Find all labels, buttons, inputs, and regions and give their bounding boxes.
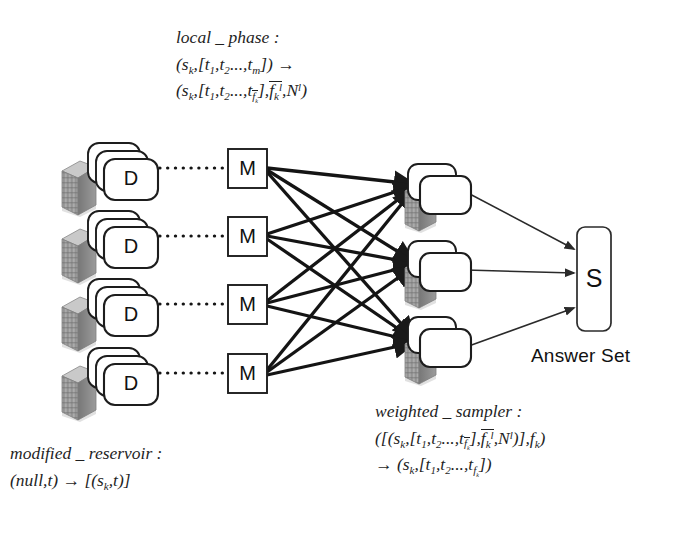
weighted-sampler-line2: ([(sk,[t1,t2...,tfk],fkl,Nl)],fk) [375, 425, 545, 452]
diagram-canvas: D D D D M M M M S Answer Set local _ pha… [0, 0, 675, 534]
edge-r2-s [466, 270, 574, 273]
edge-m2-r1 [267, 186, 413, 234]
local-phase-title: local _ phase : [176, 24, 307, 51]
weighted-sampler-title: weighted _ sampler : [375, 398, 545, 425]
data-node-1-label: D [104, 167, 158, 190]
local-phase-line3: (sk,[t1,t2...,tfk],fkl,Nl) [176, 77, 307, 104]
mapper-node-1-label: M [228, 157, 267, 180]
edge-m1-r1 [267, 168, 413, 184]
card-front [420, 329, 471, 367]
data-node-4-label: D [104, 372, 158, 395]
annotation-local-phase: local _ phase : (sk,[t1,t2...,tm]) → (sk… [176, 24, 307, 104]
mapper-node-2-label: M [228, 225, 267, 248]
edge-r1-s [466, 192, 574, 249]
annotation-weighted-sampler: weighted _ sampler : ([(sk,[t1,t2...,tfk… [375, 398, 545, 478]
modified-reservoir-line2: (null,t) → [(sk,t)] [10, 467, 162, 494]
sink-node-label: S [577, 264, 611, 293]
modified-reservoir-title: modified _ reservoir : [10, 440, 162, 467]
card-front [420, 176, 471, 214]
reducer-node-3[interactable] [405, 317, 471, 386]
reducer-node-2[interactable] [405, 241, 471, 310]
answer-set-label: Answer Set [531, 345, 630, 367]
edge-m4-r3 [267, 343, 413, 375]
weighted-sampler-line3: → (sk,[t1,t2...,tfk]) [375, 451, 545, 478]
data-node-2-label: D [104, 235, 158, 258]
reducer-node-1[interactable] [405, 164, 471, 233]
local-phase-line2: (sk,[t1,t2...,tm]) → [176, 51, 307, 78]
mapper-node-3-label: M [228, 293, 267, 316]
edges-mapper-to-reducer [267, 168, 413, 375]
mapper-node-4-label: M [228, 362, 267, 385]
annotation-modified-reservoir: modified _ reservoir : (null,t) → [(sk,t… [10, 440, 162, 493]
edges-data-to-mapper [152, 168, 228, 373]
data-node-3-label: D [104, 303, 158, 326]
edges-reducer-to-sink [466, 192, 574, 347]
edge-m2-r2 [267, 236, 413, 263]
mapper-nodes [228, 149, 267, 393]
edge-r3-s [466, 308, 574, 347]
card-front [420, 253, 471, 291]
